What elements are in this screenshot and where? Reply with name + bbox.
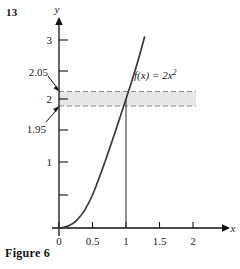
- function-label-exponent: 2: [173, 68, 177, 77]
- lower-bound-label: 1.95: [27, 123, 47, 135]
- function-curve: [59, 37, 145, 228]
- x-axis-label: x: [230, 222, 236, 234]
- y-axis-label: y: [54, 3, 60, 15]
- function-label-main: f(x) = 2x: [134, 69, 173, 82]
- x-tick-label-2: 2: [190, 235, 196, 247]
- x-axis-arrowhead: [222, 224, 230, 232]
- y-tick-label-1: 1: [47, 156, 53, 168]
- y-axis-arrowhead: [55, 17, 63, 25]
- upper-bound-label: 2.05: [29, 66, 49, 78]
- target-value-label: 2: [47, 93, 53, 105]
- x-tick-label-1.5: 1.5: [153, 235, 167, 247]
- x-tick-label-0: 0: [56, 235, 62, 247]
- x-tick-label-0.5: 0.5: [86, 235, 100, 247]
- x-tick-label-1: 1: [123, 235, 129, 247]
- figure-caption: Figure 6: [5, 246, 50, 261]
- figure-container: 13 y: [0, 0, 240, 269]
- function-label: f(x) = 2x2: [134, 68, 177, 82]
- graph-plot: y x 0 0.5 1 1.5 2 3 1 2.05 2 1.95 f(x) =…: [0, 0, 240, 269]
- y-tick-label-3: 3: [47, 34, 53, 46]
